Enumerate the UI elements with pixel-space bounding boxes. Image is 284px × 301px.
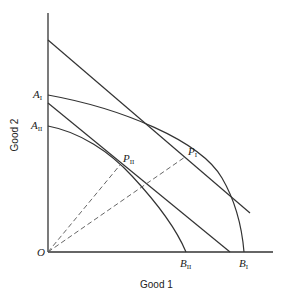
price-line-I: [48, 40, 250, 213]
label-A-I: AI: [33, 89, 42, 102]
label-A-II: AII: [31, 120, 42, 133]
label-origin: O: [37, 247, 45, 258]
frontier-II-curve: [48, 126, 186, 252]
y-axis-label: Good 2: [10, 118, 20, 152]
label-B-II: BII: [180, 258, 191, 271]
ppf-diagram: AI AII PI PII BII BI O Good 1 Good 2: [0, 0, 284, 301]
frontier-I-curve: [48, 95, 244, 252]
price-line-II: [48, 103, 230, 252]
x-axis-label: Good 1: [140, 280, 173, 290]
ray-to-P-II: [48, 165, 120, 252]
ray-to-P-I: [48, 157, 185, 252]
label-P-I: PI: [188, 146, 197, 159]
label-P-II: PII: [123, 153, 134, 166]
label-B-I: BI: [239, 258, 248, 271]
